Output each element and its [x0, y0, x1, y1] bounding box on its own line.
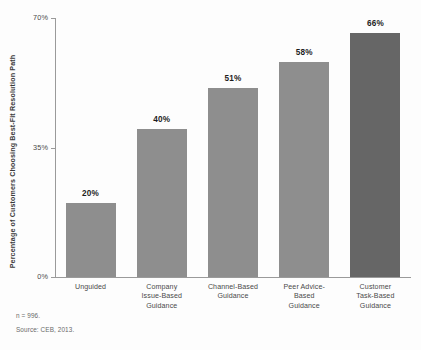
bar: [279, 62, 329, 277]
y-tick-label: 0%: [8, 272, 48, 281]
bar-group: 66%: [350, 18, 400, 277]
x-axis-category-line: Guidance: [197, 292, 268, 301]
bar: [137, 129, 187, 277]
x-axis-category-line: Unguided: [55, 283, 126, 292]
footnotes: n = 996. Source: CEB, 2013.: [16, 312, 74, 340]
bar-value-label: 66%: [350, 19, 400, 28]
x-axis-category-line: Guidance: [126, 302, 197, 311]
x-axis-category-line: Channel-Based: [197, 283, 268, 292]
bar: [66, 203, 116, 277]
bar-value-label: 51%: [208, 74, 258, 83]
x-axis-line: [55, 277, 411, 278]
x-axis-category-line: Issue-Based: [126, 292, 197, 301]
footnote-sample-size: n = 996.: [16, 312, 74, 319]
x-axis-category-label: Peer Advice-BasedGuidance: [269, 283, 340, 311]
plot-area: 20%40%51%58%66%: [55, 18, 411, 277]
bar: [208, 88, 258, 277]
x-axis-category-label: CompanyIssue-BasedGuidance: [126, 283, 197, 311]
bar-value-label: 20%: [66, 189, 116, 198]
y-axis-title: Percentage of Customers Choosing Best-Fi…: [6, 32, 20, 291]
bar-group: 20%: [66, 18, 116, 277]
bar-group: 40%: [137, 18, 187, 277]
x-axis-category-line: Guidance: [340, 302, 411, 311]
bar: [350, 33, 400, 277]
bar-value-label: 58%: [279, 48, 329, 57]
footnote-source: Source: CEB, 2013.: [16, 326, 74, 333]
x-axis-category-line: Company: [126, 283, 197, 292]
y-tick-label: 35%: [8, 143, 48, 152]
x-axis-category-line: Guidance: [269, 302, 340, 311]
bar-value-label: 40%: [137, 115, 187, 124]
x-axis-category-label: Unguided: [55, 283, 126, 292]
x-axis-category-label: CustomerTask-BasedGuidance: [340, 283, 411, 311]
chart-screenshot: Percentage of Customers Choosing Best-Fi…: [0, 0, 421, 350]
x-axis-category-line: Customer: [340, 283, 411, 292]
bar-group: 58%: [279, 18, 329, 277]
x-axis-category-label: Channel-BasedGuidance: [197, 283, 268, 302]
x-axis-category-line: Based: [269, 292, 340, 301]
y-tick-label: 70%: [8, 13, 48, 22]
x-axis-category-line: Peer Advice-: [269, 283, 340, 292]
y-tick-mark: [51, 277, 55, 278]
x-axis-category-line: Task-Based: [340, 292, 411, 301]
bar-group: 51%: [208, 18, 258, 277]
